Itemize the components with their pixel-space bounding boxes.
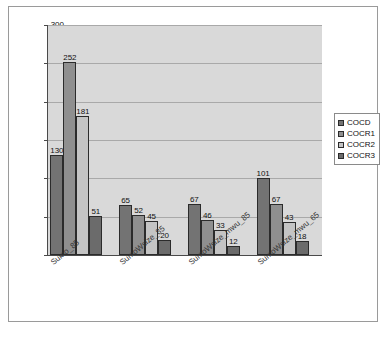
bar-value-label: 252 bbox=[63, 53, 76, 62]
bar-value-label: 52 bbox=[134, 206, 143, 215]
bar: 252 bbox=[63, 62, 76, 255]
bar-value-label: 51 bbox=[91, 207, 100, 216]
legend-swatch-icon bbox=[338, 131, 344, 137]
bar: 101 bbox=[257, 178, 270, 255]
legend-swatch-icon bbox=[338, 142, 344, 148]
legend-swatch-icon bbox=[338, 120, 344, 126]
legend-item[interactable]: COCD bbox=[338, 117, 375, 128]
legend-item-label: COCD bbox=[347, 118, 371, 127]
bar-value-label: 67 bbox=[190, 195, 199, 204]
legend-swatch-icon bbox=[338, 153, 344, 159]
legend-item[interactable]: COCR1 bbox=[338, 128, 375, 139]
bar-value-label: 67 bbox=[272, 195, 281, 204]
bar: 20 bbox=[158, 240, 171, 255]
chart-frame: 050100150200250300 130252181516552452067… bbox=[8, 6, 378, 322]
bar-value-label: 181 bbox=[76, 107, 89, 116]
bar: 18 bbox=[296, 241, 309, 255]
legend-item[interactable]: COCR2 bbox=[338, 139, 375, 150]
bar-value-label: 65 bbox=[121, 196, 130, 205]
plot-area: 130252181516552452067463312101674318 bbox=[47, 25, 322, 256]
bar-value-label: 101 bbox=[256, 169, 269, 178]
bar-value-label: 130 bbox=[50, 146, 63, 155]
bar-group: 13025218151 bbox=[50, 25, 102, 255]
bar: 65 bbox=[119, 205, 132, 255]
bar: 51 bbox=[89, 216, 102, 255]
bar-group: 65524520 bbox=[119, 25, 171, 255]
legend-item-label: COCR3 bbox=[347, 151, 375, 160]
bar: 181 bbox=[76, 116, 89, 255]
chart-legend: COCDCOCR1COCR2COCR3 bbox=[334, 113, 380, 165]
legend-item-label: COCR1 bbox=[347, 129, 375, 138]
bar-value-label: 45 bbox=[147, 212, 156, 221]
bar-group: 101674318 bbox=[257, 25, 309, 255]
bar-value-label: 12 bbox=[229, 237, 238, 246]
bar: 12 bbox=[227, 246, 240, 255]
legend-item[interactable]: COCR3 bbox=[338, 150, 375, 161]
legend-item-label: COCR2 bbox=[347, 140, 375, 149]
bar-value-label: 46 bbox=[203, 211, 212, 220]
x-axis-line bbox=[48, 255, 322, 256]
bar-value-label: 43 bbox=[285, 213, 294, 222]
bar: 130 bbox=[50, 155, 63, 255]
bar: 67 bbox=[188, 204, 201, 255]
